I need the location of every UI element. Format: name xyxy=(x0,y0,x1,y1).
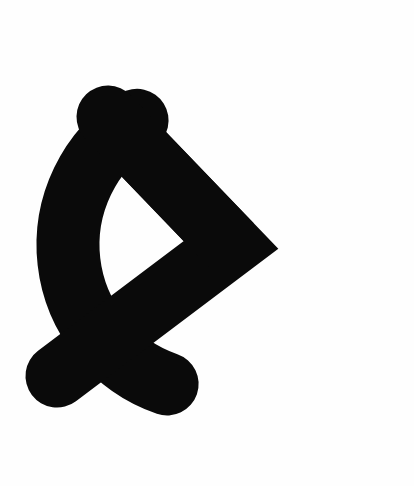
logo-mark-svg: Arc and Chevron Logo Mark A thick open c… xyxy=(0,0,414,486)
logo-canvas: Arc and Chevron Logo Mark A thick open c… xyxy=(0,0,414,486)
